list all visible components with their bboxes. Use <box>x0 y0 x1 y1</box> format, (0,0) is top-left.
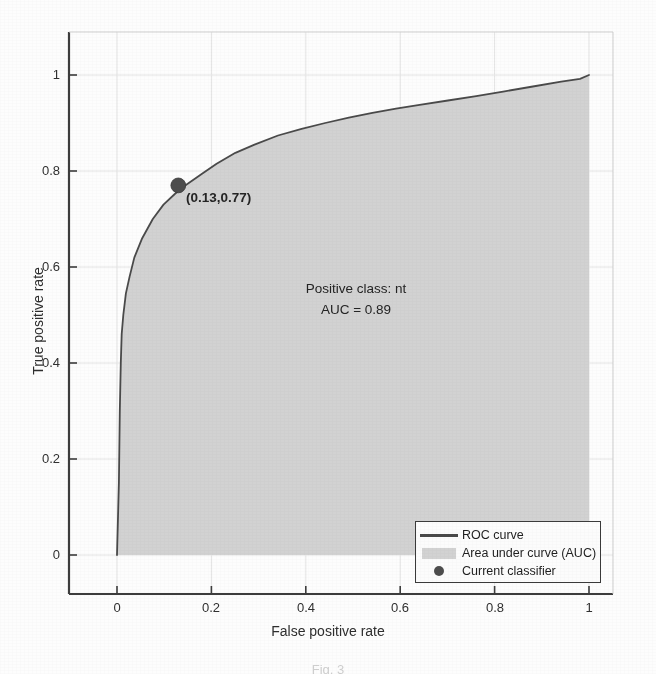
legend-item-roc-curve: ROC curve <box>416 526 600 544</box>
current-classifier-label: (0.13,0.77) <box>186 190 251 205</box>
x-tick-label-0: 0 <box>97 600 137 615</box>
x-tick-label-1: 0.2 <box>191 600 231 615</box>
x-tick-label-5: 1 <box>569 600 609 615</box>
x-tick-label-4: 0.8 <box>475 600 515 615</box>
y-tick-label-1: 0.2 <box>20 451 60 466</box>
legend-item-auc-area: Area under curve (AUC) <box>416 544 600 562</box>
area-patch-icon <box>416 548 462 559</box>
x-tick-label-3: 0.6 <box>380 600 420 615</box>
positive-class-text: Positive class: nt <box>236 278 476 299</box>
legend-label-roc-curve: ROC curve <box>462 528 524 542</box>
x-axis-title: False positive rate <box>0 623 656 639</box>
y-axis-title: True positive rate <box>30 221 46 421</box>
auc-annotation: Positive class: nt AUC = 0.89 <box>236 278 476 320</box>
figure-caption: Fig. 3 <box>0 662 656 674</box>
legend-item-current-classifier: Current classifier <box>416 562 600 580</box>
legend-label-current-classifier: Current classifier <box>462 564 556 578</box>
y-tick-label-5: 1 <box>20 67 60 82</box>
dot-marker-icon <box>416 566 462 576</box>
x-tick-label-2: 0.4 <box>286 600 326 615</box>
chart-legend: ROC curve Area under curve (AUC) Current… <box>415 521 601 583</box>
line-key-icon <box>416 534 462 537</box>
current-classifier-marker <box>171 178 186 193</box>
roc-figure: 0 0.2 0.4 0.6 0.8 1 0 0.2 0.4 0.6 0.8 1 … <box>0 0 656 674</box>
legend-label-auc-area: Area under curve (AUC) <box>462 546 596 560</box>
auc-value-text: AUC = 0.89 <box>236 299 476 320</box>
y-tick-label-4: 0.8 <box>20 163 60 178</box>
y-tick-label-0: 0 <box>20 547 60 562</box>
